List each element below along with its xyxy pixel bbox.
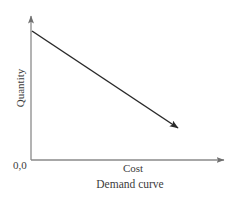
chart-canvas	[0, 0, 240, 199]
figure-background	[0, 0, 240, 199]
figure-caption: Demand curve	[96, 179, 163, 191]
y-axis-label: Quantity	[15, 69, 26, 108]
x-axis-label: Cost	[123, 163, 143, 174]
demand-curve-figure: Quantity 0,0 Cost Demand curve	[0, 0, 240, 199]
origin-label: 0,0	[13, 160, 27, 171]
